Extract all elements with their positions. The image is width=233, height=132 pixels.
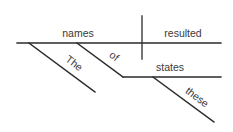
- preposition-word: of: [107, 48, 121, 63]
- subject-word: names: [62, 27, 94, 39]
- article-word: The: [64, 53, 86, 74]
- sentence-diagram: names resulted The of states these: [0, 0, 233, 132]
- object-modifier-word: these: [184, 84, 212, 109]
- verb-word: resulted: [164, 27, 202, 39]
- article-modifier-line: [29, 43, 95, 92]
- prepositional-object-word: states: [156, 61, 184, 73]
